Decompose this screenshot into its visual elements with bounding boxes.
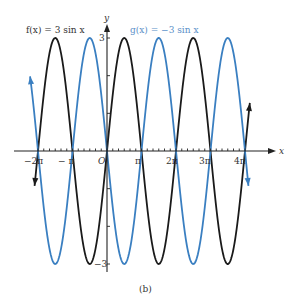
figure-caption: (b): [139, 284, 152, 294]
x-tick-label: −2π: [24, 156, 43, 166]
x-tick-label: 2π: [166, 156, 178, 166]
x-tick-label: π: [135, 156, 141, 166]
x-axis-arrow-icon: [268, 148, 276, 154]
x-tick-label: 3π: [199, 156, 211, 166]
y-axis-arrow-icon: [104, 24, 110, 32]
x-tick-label: − π: [58, 156, 74, 166]
x-tick-label: 4π: [234, 156, 246, 166]
y-tick-3: 3: [99, 33, 105, 43]
y-tick-neg3: −3: [94, 259, 108, 269]
x-axis-label: x: [279, 146, 284, 156]
y-axis-label: y: [103, 13, 110, 23]
legend-f: f(x) = 3 sin x: [26, 25, 85, 35]
x-tick-label: O: [98, 156, 106, 166]
sine-chart: x y 3 −3 −2π − π O π 2π 3π 4π f(x) = 3 s…: [0, 0, 291, 306]
legend-g: g(x) = −3 sin x: [130, 25, 198, 35]
